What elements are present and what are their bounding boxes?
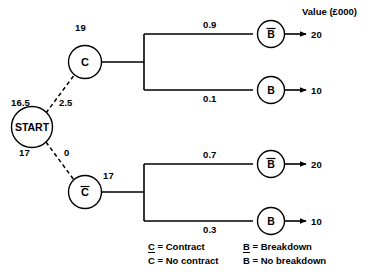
legend-symbol-c-bar: C (148, 254, 155, 268)
branch-cost-contract-label: 2.5 (59, 97, 73, 108)
legend-meaning-no-contract: No contract (166, 255, 219, 266)
probability-label-bottom-high: 0.7 (203, 149, 217, 160)
legend-equals-c: = (158, 241, 164, 252)
no-contract-node-value-label: 17 (103, 170, 114, 181)
branch-start-to-no-contract (46, 142, 74, 180)
legend-symbol-b: B (243, 241, 250, 252)
contract-node-label: C (81, 56, 89, 68)
probability-label-top-high: 0.9 (203, 19, 217, 30)
probability-label-top-low: 0.1 (203, 93, 217, 104)
legend-equals-b-bar: = (253, 255, 259, 266)
legend-symbol-c-bar-letter: C (148, 255, 155, 266)
legend-equals-b: = (253, 241, 259, 252)
legend-meaning-breakdown: Breakdown (261, 241, 312, 252)
payoff-label-bottom-high: 20 (311, 159, 322, 170)
value-column-header: Value (£000) (302, 6, 357, 17)
legend-meaning-no-breakdown: No breakdown (261, 255, 326, 266)
legend-overbar-b (243, 252, 250, 253)
no-contract-node-label: C (81, 186, 89, 198)
legend-meaning-contract: Contract (166, 241, 205, 252)
legend-symbol-c: C (148, 241, 155, 252)
decision-tree-diagram: START C C B B B B Value (£000) 16.5 17 2… (0, 0, 379, 279)
no-breakdown-top-label-group: B (267, 28, 276, 40)
tree-canvas: START C C B B B B (0, 0, 379, 279)
legend-item-no-breakdown: B = No breakdown (243, 254, 326, 268)
start-node-label: START (15, 121, 50, 133)
probability-label-bottom-low: 0.3 (203, 224, 217, 235)
legend-symbol-b-bar-letter: B (243, 255, 250, 266)
contract-node-value-label: 19 (75, 22, 86, 33)
breakdown-node-label-top: B (267, 84, 275, 96)
legend-item-no-contract: C = No contract (148, 254, 219, 268)
payoff-label-top-high: 20 (311, 29, 322, 40)
breakdown-node-label-bottom: B (267, 215, 275, 227)
legend-item-contract: C = Contract (148, 240, 219, 254)
legend-overbar-c (148, 252, 155, 253)
legend-right-column: B = Breakdown B = No breakdown (243, 240, 326, 267)
legend-symbol-b-bar: B (243, 254, 250, 268)
legend-equals-c-bar: = (158, 255, 164, 266)
legend-item-breakdown: B = Breakdown (243, 240, 326, 254)
no-breakdown-node-label-bottom: B (267, 158, 275, 170)
payoff-label-top-low: 10 (311, 85, 322, 96)
no-breakdown-node-label-top: B (267, 28, 275, 40)
no-breakdown-bottom-label-group: B (267, 158, 276, 170)
start-ev-upper-label: 16.5 (11, 97, 30, 108)
payoff-label-bottom-low: 10 (311, 216, 322, 227)
start-ev-lower-label: 17 (19, 147, 30, 158)
no-contract-node-label-group: C (81, 186, 90, 198)
branch-cost-no-contract-label: 0 (64, 147, 69, 158)
legend-left-column: C = Contract C = No contract (148, 240, 219, 267)
